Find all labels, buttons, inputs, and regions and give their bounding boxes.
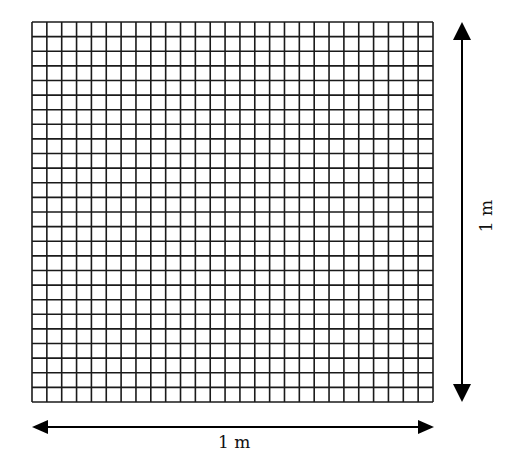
arrow-right-head-icon	[418, 420, 434, 434]
arrow-down-head-icon	[453, 384, 471, 402]
height-label: 1 m	[476, 200, 496, 232]
width-label: 1 m	[218, 432, 250, 452]
grid-diagram	[0, 0, 519, 472]
square-grid	[32, 22, 433, 402]
vertical-dimension-arrow	[453, 22, 471, 402]
arrow-left-head-icon	[32, 420, 48, 434]
arrow-up-head-icon	[453, 22, 471, 40]
